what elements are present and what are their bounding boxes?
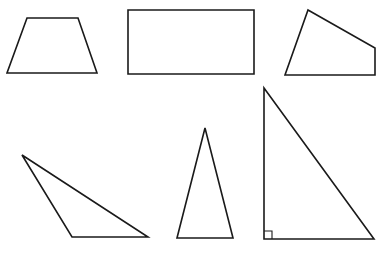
shapes-diagram: [0, 0, 386, 253]
rectangle-shape: [128, 10, 254, 74]
obtuse-triangle-shape: [22, 155, 148, 237]
isosceles-triangle-shape: [177, 128, 233, 238]
irregular-quadrilateral-shape: [285, 10, 375, 75]
shapes-svg: [0, 0, 386, 253]
right-triangle-shape: [264, 88, 374, 239]
trapezoid-shape: [7, 18, 97, 73]
